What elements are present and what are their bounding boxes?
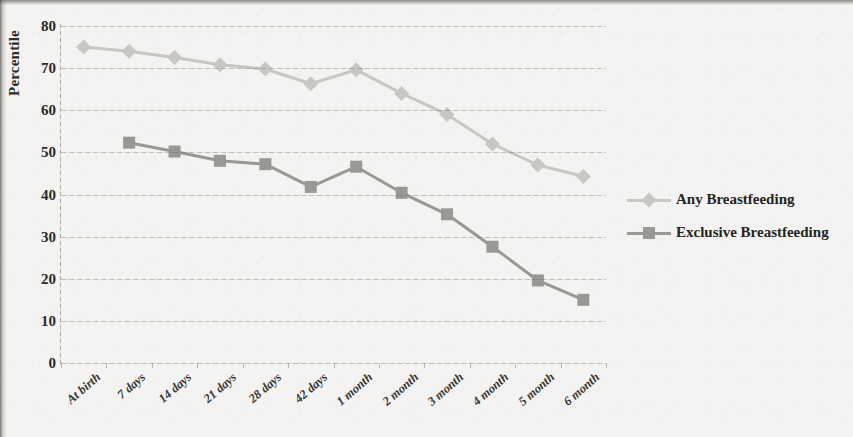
data-point-diamond bbox=[212, 57, 227, 72]
data-point-square bbox=[577, 294, 589, 306]
gridline bbox=[61, 321, 606, 322]
gridline bbox=[61, 279, 606, 280]
data-point-diamond bbox=[485, 136, 500, 151]
y-axis-tick-label: 20 bbox=[12, 270, 56, 287]
data-point-diamond bbox=[530, 158, 545, 173]
y-axis-tick-label: 10 bbox=[12, 312, 56, 329]
gridline bbox=[61, 237, 606, 238]
legend-item-any-breastfeeding[interactable]: Any Breastfeeding bbox=[627, 183, 829, 216]
data-point-diamond bbox=[167, 50, 182, 65]
y-axis-tick-label: 50 bbox=[12, 144, 56, 161]
gridline bbox=[61, 152, 606, 153]
data-point-diamond bbox=[576, 169, 591, 184]
series-line bbox=[84, 47, 584, 176]
legend-swatch-any-breastfeeding bbox=[627, 193, 671, 207]
y-axis-tick-label: 40 bbox=[12, 186, 56, 203]
line-chart: Percentile 80706050403020100 At birth7 d… bbox=[0, 0, 853, 437]
gridline bbox=[61, 26, 606, 27]
y-axis-tick-labels: 80706050403020100 bbox=[12, 0, 56, 437]
data-point-square bbox=[486, 241, 498, 253]
data-point-diamond bbox=[303, 76, 318, 91]
data-point-square bbox=[532, 274, 544, 286]
plot-area bbox=[61, 26, 606, 363]
data-point-square bbox=[123, 137, 135, 149]
y-axis-tick-label: 30 bbox=[12, 228, 56, 245]
data-point-diamond bbox=[642, 192, 657, 207]
legend-label-exclusive-breastfeeding: Exclusive Breastfeeding bbox=[676, 224, 829, 241]
legend-label-any-breastfeeding: Any Breastfeeding bbox=[676, 191, 794, 208]
y-axis-tick-label: 70 bbox=[12, 60, 56, 77]
y-axis-tick-label: 80 bbox=[12, 18, 56, 35]
y-axis-tick-label: 60 bbox=[12, 102, 56, 119]
gridline bbox=[61, 110, 606, 111]
data-point-square bbox=[643, 227, 655, 239]
data-point-square bbox=[396, 187, 408, 199]
data-point-square bbox=[441, 208, 453, 220]
legend-swatch-exclusive-breastfeeding bbox=[627, 226, 671, 240]
data-point-square bbox=[350, 161, 362, 173]
gridline bbox=[61, 68, 606, 69]
y-axis-tick-label: 0 bbox=[12, 355, 56, 372]
data-point-square bbox=[305, 181, 317, 193]
gridline bbox=[61, 195, 606, 196]
data-point-diamond bbox=[394, 86, 409, 101]
data-point-square bbox=[259, 158, 271, 170]
data-point-diamond bbox=[122, 44, 137, 59]
legend-item-exclusive-breastfeeding[interactable]: Exclusive Breastfeeding bbox=[627, 216, 829, 249]
data-point-diamond bbox=[349, 62, 364, 77]
data-point-diamond bbox=[440, 107, 455, 122]
chart-legend: Any Breastfeeding Exclusive Breastfeedin… bbox=[627, 183, 829, 249]
data-point-square bbox=[214, 155, 226, 167]
data-point-diamond bbox=[76, 40, 91, 55]
x-axis-tick-mark bbox=[61, 363, 62, 368]
